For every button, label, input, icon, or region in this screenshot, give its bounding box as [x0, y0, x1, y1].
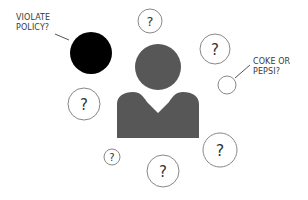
question-circle: ? [203, 133, 237, 167]
question-circle: ? [200, 34, 230, 64]
person-head [135, 44, 181, 90]
question-circle: ? [138, 9, 162, 33]
person-silhouette-icon [117, 44, 199, 138]
question-circle: ? [147, 155, 179, 187]
coke-pepsi-connector [235, 65, 250, 78]
question-mark-icon: ? [216, 141, 225, 160]
coke-or-pepsi-line-2: PEPSI? [253, 67, 290, 77]
person-body [117, 92, 199, 138]
question-mark-icon: ? [109, 152, 114, 163]
violate-policy-label: VIOLATE POLICY? [16, 13, 50, 33]
small-empty-circle [218, 76, 236, 94]
violate-policy-line-1: VIOLATE [16, 13, 50, 23]
violate-policy-connector [55, 34, 69, 40]
question-mark-icon: ? [159, 163, 167, 181]
black-circle [70, 32, 112, 74]
question-mark-icon: ? [147, 14, 154, 29]
question-circle: ? [68, 88, 100, 120]
question-circle: ? [104, 149, 120, 165]
coke-or-pepsi-line-1: COKE OR [253, 57, 290, 67]
question-mark-icon: ? [80, 96, 88, 114]
question-mark-icon: ? [211, 41, 219, 59]
coke-or-pepsi-label: COKE OR PEPSI? [253, 57, 290, 77]
violate-policy-line-2: POLICY? [16, 23, 50, 33]
